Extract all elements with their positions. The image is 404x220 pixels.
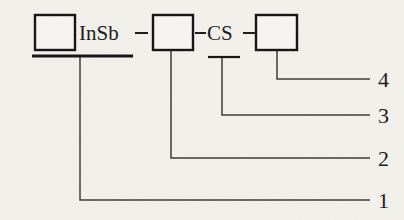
callout-leader-2 — [171, 50, 370, 158]
layer-box-3 — [256, 15, 297, 50]
material-label-cs: CS — [207, 21, 233, 45]
callout-number-2: 2 — [378, 146, 389, 171]
layer-box-1 — [35, 15, 75, 50]
callout-leader-4 — [277, 50, 370, 79]
layer-box-2 — [153, 15, 193, 50]
callout-leader-3 — [222, 57, 370, 115]
material-label-insb: InSb — [79, 21, 119, 45]
callout-number-4: 4 — [378, 67, 389, 92]
callout-number-3: 3 — [378, 103, 389, 128]
callout-number-1: 1 — [378, 188, 389, 213]
diagram-svg: InSb CS 4 3 2 1 — [0, 0, 404, 220]
callout-leader-1 — [80, 56, 370, 200]
diagram-canvas: InSb CS 4 3 2 1 — [0, 0, 404, 220]
